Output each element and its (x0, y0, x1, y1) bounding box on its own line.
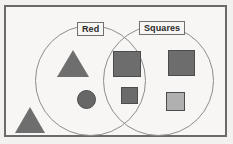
triangle-shape-red-only (57, 50, 89, 77)
square-shape-squares-only-large (168, 50, 195, 76)
square-shape-squares-only-light (166, 92, 185, 111)
venn-label-squares: Squares (139, 21, 185, 35)
venn-diagram-screen: Red Squares (0, 0, 233, 144)
diagram-frame: Red Squares (4, 5, 227, 137)
triangle-shape-outside-sets (15, 107, 45, 133)
venn-label-red: Red (77, 22, 104, 36)
venn-circle-squares (103, 25, 214, 136)
square-shape-intersection-small (121, 87, 138, 104)
square-shape-intersection-large (113, 51, 141, 77)
circle-shape-red-only (77, 90, 96, 109)
